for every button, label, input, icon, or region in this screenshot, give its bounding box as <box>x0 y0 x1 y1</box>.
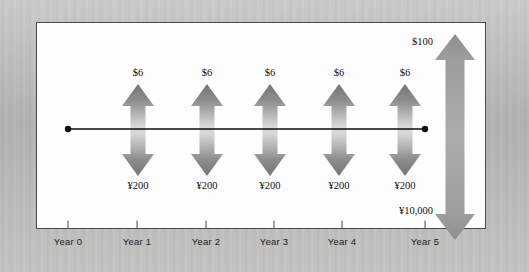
coupon-down-label-3: ¥200 <box>329 180 350 191</box>
coupon-down-label-1: ¥200 <box>197 180 218 191</box>
coupon-up-label-1: $6 <box>202 67 213 78</box>
axis-label-year-4: Year 4 <box>328 236 356 247</box>
principal-up-label: $100 <box>412 36 433 47</box>
timeline-start-marker <box>65 126 71 132</box>
axis-label-year-5: Year 5 <box>411 236 439 247</box>
timeline-group <box>65 126 428 132</box>
coupon-arrow-1 <box>191 84 223 176</box>
axis-label-year-2: Year 2 <box>192 236 220 247</box>
axis-label-year-3: Year 3 <box>260 236 288 247</box>
coupon-down-label-2: ¥200 <box>260 180 281 191</box>
principal-arrow <box>435 34 475 240</box>
coupon-up-label-4: $6 <box>400 67 411 78</box>
axis-label-year-1: Year 1 <box>123 236 151 247</box>
timeline-end-marker <box>422 126 428 132</box>
axis-label-year-0: Year 0 <box>54 236 82 247</box>
principal-down-label: ¥10,000 <box>399 205 433 216</box>
cash-flow-diagram <box>0 0 529 272</box>
coupon-arrow-2 <box>254 84 286 176</box>
coupon-arrow-0 <box>122 84 154 176</box>
coupon-arrow-3 <box>323 84 355 176</box>
coupon-arrow-4 <box>389 84 421 176</box>
coupon-down-label-0: ¥200 <box>128 180 149 191</box>
coupon-up-label-3: $6 <box>334 67 345 78</box>
coupon-up-label-2: $6 <box>265 67 276 78</box>
coupon-up-label-0: $6 <box>133 67 144 78</box>
coupon-down-label-4: ¥200 <box>395 180 416 191</box>
axis-tick-group <box>68 221 425 229</box>
